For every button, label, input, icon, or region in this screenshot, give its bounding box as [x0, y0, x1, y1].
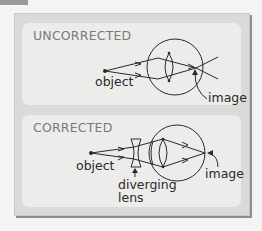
convex-lens-icon — [159, 139, 167, 167]
image-label: image — [205, 167, 244, 180]
diverging-lens-icon — [131, 139, 141, 167]
eyeball-icon — [149, 125, 205, 181]
object-label: object — [76, 159, 115, 172]
image-arrow-icon — [192, 69, 198, 75]
diverging-lens-label-line2: lens — [118, 191, 144, 204]
image-label: image — [208, 91, 247, 104]
diagram-card: UNCORRECTED object imag — [14, 13, 250, 216]
corner-mark — [0, 0, 28, 5]
image-arrow-icon — [207, 150, 213, 156]
uncorrected-panel: UNCORRECTED object imag — [22, 23, 241, 105]
corrected-panel: CORRECTED — [22, 115, 241, 207]
object-point — [89, 151, 93, 155]
object-point — [103, 69, 107, 73]
object-label: object — [95, 75, 134, 88]
lens-pointer-icon — [132, 168, 138, 173]
